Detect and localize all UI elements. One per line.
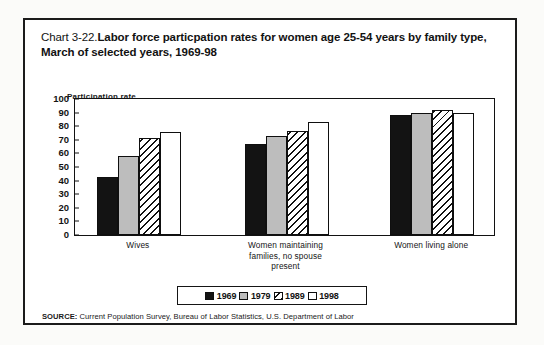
- chart-legend: 1969197919891998: [177, 286, 367, 305]
- legend-label: 1998: [319, 291, 339, 301]
- chart-frame: Chart 3-22.Labor force particpation rate…: [23, 18, 517, 325]
- bar-women-living-alone-1989: [432, 110, 453, 235]
- source-tag: SOURCE:: [42, 312, 77, 321]
- y-axis-tick-label: 50: [58, 162, 75, 172]
- x-axis-group-label-line: families, no spouse: [216, 251, 356, 262]
- y-axis-tick-label: 0: [64, 230, 75, 240]
- legend-item-1998: 1998: [308, 291, 339, 301]
- source-text: Current Population Survey, Bureau of Lab…: [77, 312, 354, 321]
- chart-title-prefix: Chart 3-22.: [41, 31, 97, 43]
- bars-layer: [75, 99, 494, 235]
- legend-swatch-icon: [308, 292, 317, 300]
- bar-women-living-alone-1998: [453, 113, 474, 235]
- legend-swatch-icon: [274, 292, 283, 300]
- bar-women-maintaining-families-no-spouse-present-1989: [287, 131, 308, 235]
- bar-wives-1979: [118, 156, 139, 235]
- y-axis-tick-label: 90: [58, 108, 75, 118]
- legend-item-1979: 1979: [239, 291, 270, 301]
- x-axis-group-label-line: Women living alone: [361, 240, 501, 251]
- y-axis-tick-label: 40: [58, 176, 75, 186]
- y-axis-tick-label: 60: [58, 149, 75, 159]
- bar-women-living-alone-1979: [411, 113, 432, 235]
- y-axis-tick-label: 100: [53, 94, 75, 104]
- bar-wives-1969: [97, 177, 118, 235]
- y-axis-tick-label: 30: [58, 189, 75, 199]
- bar-wives-1989: [139, 138, 160, 235]
- x-axis-group-label: Wives: [68, 240, 208, 251]
- plot-area: 1009080706050403020100: [74, 98, 495, 236]
- bar-women-maintaining-families-no-spouse-present-1979: [266, 136, 287, 235]
- y-axis-tick-label: 10: [58, 217, 75, 227]
- legend-swatch-icon: [239, 292, 248, 300]
- bar-wives-1998: [160, 132, 181, 235]
- x-axis-group-label: Women living alone: [361, 240, 501, 251]
- source-note: SOURCE: Current Population Survey, Burea…: [42, 312, 354, 321]
- x-axis-group-label-line: Women maintaining: [216, 240, 356, 251]
- y-axis-tick-label: 20: [58, 203, 75, 213]
- chart-title-text: Labor force particpation rates for women…: [41, 31, 486, 58]
- x-axis-group-label-line: present: [216, 261, 356, 272]
- bar-women-maintaining-families-no-spouse-present-1969: [245, 144, 266, 235]
- x-axis-group-label: Women maintainingfamilies, no spousepres…: [216, 240, 356, 272]
- x-axis-group-label-line: Wives: [68, 240, 208, 251]
- chart-title: Chart 3-22.Labor force particpation rate…: [41, 30, 499, 60]
- legend-item-1989: 1989: [274, 291, 305, 301]
- legend-label: 1979: [251, 291, 271, 301]
- legend-label: 1989: [285, 291, 305, 301]
- bar-women-living-alone-1969: [390, 115, 411, 235]
- legend-label: 1969: [217, 291, 237, 301]
- legend-item-1969: 1969: [205, 291, 236, 301]
- y-axis-tick-label: 80: [58, 121, 75, 131]
- legend-swatch-icon: [205, 292, 214, 300]
- bar-women-maintaining-families-no-spouse-present-1998: [308, 122, 329, 235]
- y-axis-tick-label: 70: [58, 135, 75, 145]
